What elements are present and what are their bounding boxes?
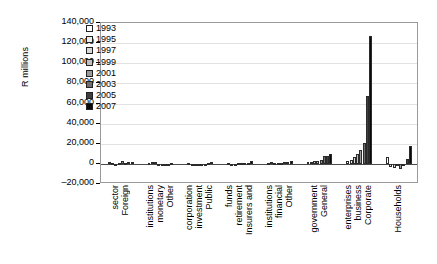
x-category-line: institutions [145,185,155,228]
legend-label: 2003 [96,80,116,89]
x-category-line: financial [274,185,284,218]
x-category-line: funds [224,185,234,207]
x-category-line: Foreign [120,185,130,216]
x-category-line: Public [204,185,214,210]
x-category-line: Insurers and [244,185,254,235]
bar-group [260,23,300,182]
bar [250,161,253,164]
legend-item: 1995 [86,34,132,45]
legend-label: 1995 [96,35,116,44]
legend-swatch-icon [86,25,93,32]
legend-item: 1997 [86,45,132,56]
x-category-line: Other [165,185,175,208]
legend-item: 2005 [86,90,132,101]
bar-group [340,23,380,182]
bar-chart: R millions 140,000120,000100,00080,00060… [0,0,437,264]
bar [329,154,332,164]
legend-swatch-icon [86,47,93,54]
bar [170,163,173,165]
x-axis-labels: ForeignsectorOthermonetaryinstitutionsPu… [100,185,418,264]
x-category-label: Othermonetaryinstitutions [140,185,180,264]
bar-group [181,23,221,182]
legend-swatch-icon [86,70,93,77]
legend-item: 1999 [86,57,132,68]
x-category-label: Insurers andretirementfunds [219,185,259,264]
legend-swatch-icon [86,36,93,43]
y-tick-mark [96,183,100,184]
y-tick-label: 40,000 [38,118,94,127]
x-category-line: Corporate [363,185,373,225]
legend-swatch-icon [86,59,93,66]
x-category-line: government [309,185,319,233]
legend-swatch-icon [86,103,93,110]
legend-label: 1999 [96,58,116,67]
bar-group [300,23,340,182]
legend-item: 2003 [86,79,132,90]
legend-item: 1993 [86,23,132,34]
bar-group [379,23,418,182]
legend-swatch-icon [86,81,93,88]
x-category-line: Other [284,185,294,208]
bar [409,146,412,164]
x-category-label: Generalgovernment [299,185,339,264]
y-tick-label: 0 [38,158,94,167]
x-category-line: monetary [155,185,165,223]
y-tick-label: –20,000 [38,178,94,187]
legend-label: 2007 [96,102,116,111]
plot-area [100,22,418,183]
legend-item: 2001 [86,68,132,79]
legend-label: 2001 [96,69,116,78]
bar-group [141,23,181,182]
legend-swatch-icon [86,92,93,99]
x-category-label: Publicinvestmentcorporation [180,185,220,264]
x-category-line: institutions [264,185,274,228]
legend: 19931995199719992001200320052007 [86,23,132,113]
x-category-label: Otherfinancialinstitutions [259,185,299,264]
y-tick-mark [96,123,100,124]
bar [290,161,293,164]
bar [369,36,372,164]
y-axis-title: R millions [20,12,30,122]
x-category-label: Corporatebusinessenterprises [339,185,379,264]
legend-label: 2005 [96,91,116,100]
x-category-line: sector [110,185,120,210]
y-tick-mark [96,163,100,164]
bar [402,164,405,166]
x-category-line: enterprises [343,185,353,230]
legend-label: 1993 [96,24,116,33]
legend-item: 2007 [86,101,132,112]
x-category-line: investment [194,185,204,229]
bar [210,162,213,164]
x-category-label: Foreignsector [100,185,140,264]
legend-label: 1997 [96,46,116,55]
x-category-line: retirement [234,185,244,226]
bar [131,162,134,164]
x-category-line: Households [393,185,403,233]
x-category-line: corporation [184,185,194,230]
x-category-line: business [353,185,363,221]
y-tick-mark [96,143,100,144]
x-category-line: General [319,185,329,217]
bar-group [220,23,260,182]
y-tick-label: 20,000 [38,138,94,147]
bar [386,157,389,164]
x-category-label: Households [378,185,418,264]
